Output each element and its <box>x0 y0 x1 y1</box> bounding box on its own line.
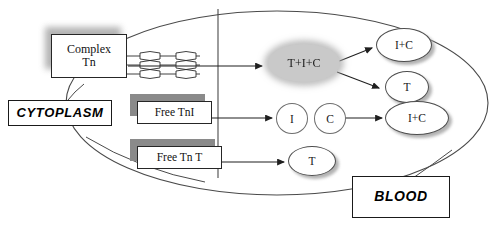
complex-tn-label: Complex Tn <box>67 43 111 70</box>
free-tnt-label: Free Tn T <box>157 151 203 164</box>
leader-complex-to-cytoplasm <box>68 84 84 100</box>
t-upper-label: T <box>403 81 410 93</box>
i-free-label: I <box>290 113 294 125</box>
t-i-c-label: T+I+C <box>288 56 321 71</box>
t-lower-ellipse[interactable]: T <box>288 146 336 176</box>
free-tnt-box[interactable]: Free Tn T <box>137 146 222 169</box>
i-free-ellipse[interactable]: I <box>276 103 308 134</box>
cytoplasm-label-box[interactable]: CYTOPLASM <box>8 100 112 126</box>
c-free-ellipse[interactable]: C <box>314 103 346 134</box>
blood-label: BLOOD <box>374 189 428 205</box>
sarcomere-filament-icon <box>124 52 200 79</box>
cytoplasm-label: CYTOPLASM <box>17 106 104 121</box>
free-tni-box[interactable]: Free TnI <box>137 101 212 124</box>
i-c-lower-ellipse[interactable]: I+C <box>385 101 449 135</box>
t-i-c-ellipse[interactable]: T+I+C <box>268 44 340 82</box>
arrow-tic-to-t <box>337 72 379 88</box>
complex-tn-box[interactable]: Complex Tn <box>51 34 127 78</box>
i-c-lower-label: I+C <box>408 112 426 124</box>
i-c-upper-ellipse[interactable]: I+C <box>376 28 432 62</box>
t-upper-ellipse[interactable]: T <box>385 71 429 103</box>
arrow-tic-to-ic <box>337 48 372 62</box>
leader-blood-to-membrane <box>413 150 452 178</box>
blood-label-box[interactable]: BLOOD <box>352 176 450 218</box>
c-free-label: C <box>326 113 334 125</box>
i-c-upper-label: I+C <box>395 39 413 51</box>
diagram-canvas: Complex Tn Free TnI Free Tn T CYTOPLASM … <box>0 0 501 227</box>
free-tni-label: Free TnI <box>155 106 195 119</box>
t-lower-label: T <box>308 155 315 167</box>
